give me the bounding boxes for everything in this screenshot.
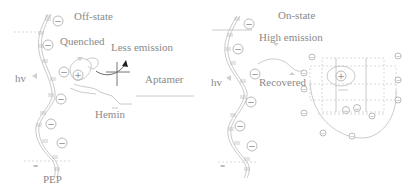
diagram-canvas: − − − − − − + — [0, 0, 403, 190]
high-emission-label: High emission — [259, 31, 323, 43]
right-polymer-backbone — [225, 16, 247, 178]
svg-text:−: − — [350, 133, 354, 139]
svg-text:−: − — [247, 97, 255, 107]
svg-text:−: − — [302, 110, 306, 116]
quench-arrow-icon — [77, 57, 83, 61]
svg-text:−: − — [47, 119, 55, 129]
svg-text:−: − — [57, 94, 65, 104]
neg-charge: − — [56, 94, 66, 104]
svg-text:−: − — [321, 130, 325, 136]
neg-charge: − — [343, 107, 350, 114]
off-state-label: Off-state — [74, 10, 113, 22]
neg-charge: − — [246, 97, 256, 107]
neg-charge: − — [395, 77, 401, 83]
svg-text:−: − — [44, 40, 52, 50]
svg-text:−: − — [54, 16, 62, 26]
released-aptamer-complex: + − − − − − − − − − − − − — [301, 53, 401, 139]
right-negative-charges: − − − − − − — [233, 19, 260, 151]
on-state-label: On-state — [278, 9, 315, 21]
neg-charge: − — [43, 40, 53, 50]
svg-text:−: − — [343, 107, 348, 114]
left-hv-label: hv — [15, 72, 27, 84]
svg-text:+: + — [337, 71, 345, 81]
left-equals-mark: = — [33, 161, 38, 171]
neg-charge: − — [369, 113, 375, 119]
neg-charge: − — [235, 121, 245, 131]
right-equals-mark: = — [220, 161, 225, 171]
left-panel: − − − − − − + — [14, 10, 194, 185]
pos-charge: + — [73, 70, 83, 80]
svg-text:−: − — [396, 53, 400, 59]
left-light-arrow-icon — [32, 73, 37, 79]
neg-charge: − — [244, 19, 254, 29]
neg-charge: − — [309, 54, 315, 60]
neg-charge: − — [354, 105, 361, 112]
less-emission-label: Less emission — [111, 41, 174, 53]
pep-label: PEP — [43, 173, 62, 185]
neg-charge: − — [247, 141, 257, 151]
svg-text:−: − — [248, 141, 256, 151]
neg-charge: − — [301, 110, 307, 116]
recovered-label: Recovered — [259, 76, 307, 88]
less-emission-indicator — [96, 60, 130, 86]
neg-charge: − — [320, 130, 326, 136]
pos-charge: + — [336, 71, 346, 81]
right-hv-label: hv — [211, 76, 223, 88]
svg-text:+: + — [74, 70, 82, 80]
neg-charge: − — [53, 16, 63, 26]
svg-text:−: − — [60, 67, 68, 77]
right-polymer-backbone-inner — [228, 16, 250, 178]
right-emission-arrow-icon — [273, 43, 279, 46]
svg-text:−: − — [396, 77, 400, 83]
emission-wave — [258, 59, 304, 71]
neg-charge: − — [59, 67, 69, 77]
svg-text:−: − — [234, 44, 242, 54]
neg-charge: − — [395, 53, 401, 59]
aptamer-label: Aptamer — [145, 73, 184, 85]
right-light-arrow-icon — [226, 75, 231, 81]
quenched-label: Quenched — [60, 35, 105, 47]
svg-text:−: − — [58, 138, 66, 148]
svg-text:−: − — [354, 105, 359, 112]
aptamer-hemin-complex: + — [70, 57, 132, 108]
arrow-head-icon — [122, 60, 128, 67]
neg-charge: − — [57, 138, 67, 148]
svg-text:−: − — [236, 121, 244, 131]
svg-text:−: − — [370, 113, 374, 119]
neg-charge: − — [395, 97, 401, 103]
neg-charge: − — [233, 44, 243, 54]
svg-text:−: − — [245, 19, 253, 29]
svg-text:−: − — [310, 54, 314, 60]
neg-charge: − — [46, 119, 56, 129]
svg-text:−: − — [396, 97, 400, 103]
neg-charge: − — [349, 133, 355, 139]
right-panel: − − − − − − + − − — [211, 9, 401, 178]
recovered-arrow-icon — [289, 72, 295, 75]
svg-text:−: − — [251, 69, 259, 79]
hemin-label: Hemin — [95, 108, 125, 120]
